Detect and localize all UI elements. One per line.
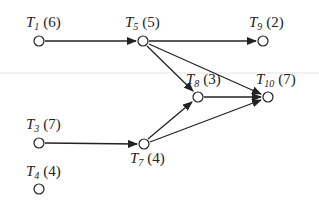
- node-t9: [258, 36, 268, 46]
- label-t8: T8(3): [186, 71, 221, 89]
- label-t9: T9(2): [249, 14, 284, 32]
- node-t5: [138, 36, 148, 46]
- node-t4: [34, 184, 44, 194]
- edge-t3-t7: [45, 143, 137, 144]
- label-t10: T10(7): [256, 71, 296, 89]
- node-t10: [263, 92, 273, 102]
- label-t3: T3(7): [26, 116, 61, 134]
- node-t3: [34, 138, 44, 148]
- node-t1: [34, 36, 44, 46]
- edge-t7-t10: [150, 100, 261, 142]
- label-t4: T4(4): [26, 163, 61, 181]
- edge-t7-t8: [148, 102, 192, 139]
- task-graph-diagram: T1(6) T5(5) T9(2) T8(3) T10(7) T3(7) T7(…: [0, 0, 319, 202]
- node-t8: [193, 92, 203, 102]
- node-t7: [139, 139, 149, 149]
- label-t1: T1(6): [26, 14, 61, 32]
- label-t7: T7(4): [130, 150, 165, 168]
- label-t5: T5(5): [125, 14, 160, 32]
